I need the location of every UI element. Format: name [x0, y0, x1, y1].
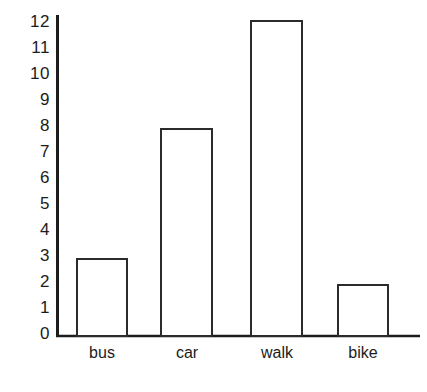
plot-area: [0, 0, 427, 392]
bar-car: [161, 129, 212, 336]
bars: [77, 21, 388, 336]
x-tick-label-walk: walk: [261, 344, 293, 362]
x-tick-label-car: car: [176, 344, 198, 362]
bar-walk: [251, 21, 302, 336]
x-tick-label-bus: bus: [89, 344, 115, 362]
bar-bus: [77, 259, 127, 336]
x-tick-label-bike: bike: [348, 344, 377, 362]
bar-chart: 12 11 10 9 8 7 6 5 4 3 2 1 0 bus car wal…: [0, 0, 427, 392]
bar-bike: [338, 285, 388, 336]
